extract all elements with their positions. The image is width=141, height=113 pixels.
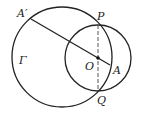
label-a: A: [112, 64, 121, 77]
label-q: Q: [97, 94, 106, 107]
label-o: O: [85, 60, 94, 73]
label-gamma: Γ: [18, 54, 27, 67]
point-o: [96, 56, 100, 60]
geometry-diagram: A′ P Γ O A Q: [0, 0, 141, 113]
label-a-prime: A′: [16, 7, 28, 20]
label-p: P: [96, 10, 105, 23]
